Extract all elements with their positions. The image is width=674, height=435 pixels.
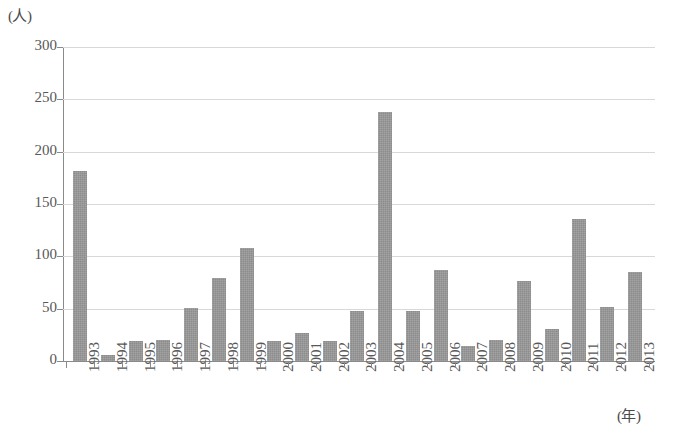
x-tick-mark-2013 <box>621 362 622 368</box>
x-tick-mark-1999 <box>233 362 234 368</box>
y-tick-mark-150 <box>57 204 63 205</box>
x-tick-mark-1995 <box>122 362 123 368</box>
y-tick-label-50: 50 <box>42 299 57 316</box>
x-axis-unit-label: (年) <box>617 404 641 425</box>
x-tick-mark-2008 <box>482 362 483 368</box>
x-tick-mark-2009 <box>510 362 511 368</box>
y-tick-mark-0 <box>57 361 63 362</box>
gridline-100 <box>63 256 655 257</box>
y-tick-label-300: 300 <box>35 37 58 54</box>
gridline-150 <box>63 204 655 205</box>
x-tick-mark-end <box>649 362 650 368</box>
x-tick-mark-1993 <box>66 362 67 368</box>
x-tick-mark-1994 <box>94 362 95 368</box>
bar-chart-figure: (人) 050100150200250300 (年) 1993199419951… <box>0 0 674 435</box>
plot-area <box>63 47 655 361</box>
x-tick-mark-1997 <box>177 362 178 368</box>
y-tick-mark-200 <box>57 152 63 153</box>
y-tick-mark-250 <box>57 99 63 100</box>
x-tick-mark-1996 <box>150 362 151 368</box>
bar-2008 <box>489 340 503 361</box>
x-tick-mark-2000 <box>260 362 261 368</box>
y-tick-mark-50 <box>57 309 63 310</box>
y-tick-label-250: 250 <box>35 89 58 106</box>
bar-2004 <box>378 112 392 361</box>
x-tick-mark-2006 <box>427 362 428 368</box>
y-tick-label-150: 150 <box>35 194 58 211</box>
y-tick-label-0: 0 <box>50 351 58 368</box>
y-tick-mark-300 <box>57 47 63 48</box>
gridline-200 <box>63 152 655 153</box>
x-tick-mark-2004 <box>371 362 372 368</box>
gridline-250 <box>63 99 655 100</box>
x-tick-mark-2001 <box>288 362 289 368</box>
x-tick-mark-2005 <box>399 362 400 368</box>
gridline-50 <box>63 309 655 310</box>
x-tick-mark-2003 <box>344 362 345 368</box>
bar-2012 <box>600 307 614 361</box>
x-tick-mark-2010 <box>538 362 539 368</box>
x-tick-mark-2011 <box>565 362 566 368</box>
bar-2005 <box>406 311 420 361</box>
bar-2001 <box>295 333 309 361</box>
bar-1993 <box>73 171 87 361</box>
x-tick-mark-2012 <box>593 362 594 368</box>
y-tick-mark-100 <box>57 256 63 257</box>
x-tick-mark-2007 <box>455 362 456 368</box>
bar-1997 <box>184 308 198 361</box>
x-tick-mark-1998 <box>205 362 206 368</box>
gridline-300 <box>63 47 655 48</box>
y-axis-tick-labels: 050100150200250300 <box>0 0 57 435</box>
y-tick-label-200: 200 <box>35 142 58 159</box>
x-tick-mark-2002 <box>316 362 317 368</box>
y-tick-label-100: 100 <box>35 246 58 263</box>
bar-2011 <box>572 219 586 361</box>
